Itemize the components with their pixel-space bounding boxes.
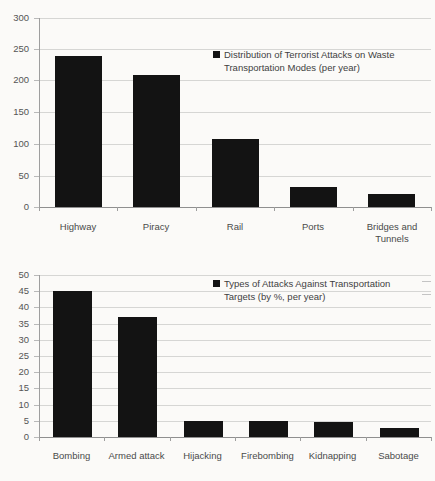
x-label-armed-attack: Armed attack: [104, 450, 169, 462]
y-tick-label: 10: [18, 400, 29, 410]
bar-sabotage: [380, 428, 419, 437]
x-label-kidnapping: Kidnapping: [300, 450, 365, 462]
y-tick-label: 0: [24, 202, 29, 212]
chart-terrorist-attacks-waste-transport: 300 250 200 150 100 50 0: [0, 0, 435, 262]
x-tick-mark: [196, 207, 197, 211]
x-tick-mark: [274, 207, 275, 211]
x-tick-mark: [39, 207, 40, 211]
legend-label-line2: Transportation Modes (per year): [224, 62, 360, 73]
x-tick-mark: [235, 437, 236, 441]
gridline: [39, 405, 431, 406]
y-tick-label: 50: [18, 270, 29, 280]
y-tick-label: 40: [18, 303, 29, 313]
bar-hijacking: [184, 421, 223, 437]
gridline: [39, 372, 431, 373]
y-tick-label: 150: [13, 107, 29, 117]
x-tick-mark: [431, 437, 432, 441]
y-tick-label: 25: [18, 351, 29, 361]
x-tick-mark: [39, 437, 40, 441]
y-tick-label: 30: [18, 335, 29, 345]
gridline: [39, 356, 431, 357]
legend-top: Distribution of Terrorist Attacks on Was…: [213, 49, 431, 74]
x-tick-mark: [300, 437, 301, 441]
bar-armed-attack: [118, 317, 157, 437]
bar-firebombing: [249, 421, 288, 437]
gridline: [39, 324, 431, 325]
x-tick-mark: [117, 207, 118, 211]
x-label-ports: Ports: [274, 221, 352, 233]
gridline: [39, 388, 431, 389]
x-tick-mark: [366, 437, 367, 441]
bar-highway: [55, 56, 102, 208]
bar-rail: [212, 139, 259, 207]
y-tick-label: 250: [13, 44, 29, 54]
y-tick-label: 100: [13, 139, 29, 149]
y-tick-label: 200: [13, 75, 29, 85]
gridline: [39, 307, 431, 308]
x-tick-mark: [104, 437, 105, 441]
gridline: [39, 18, 431, 19]
y-axis-line: [39, 275, 40, 437]
bar-kidnapping: [314, 422, 353, 437]
y-tick-label: 300: [13, 13, 29, 23]
legend-swatch-icon: [213, 51, 220, 58]
x-label-piracy: Piracy: [117, 221, 195, 233]
x-label-hijacking: Hijacking: [170, 450, 235, 462]
edge-artifact-dash: [422, 281, 431, 282]
legend-label-top: Distribution of Terrorist Attacks on Was…: [224, 49, 431, 74]
bar-bombing: [53, 291, 92, 437]
gridline: [39, 421, 431, 422]
legend-label-bottom: Types of Attacks Against Transportation …: [224, 278, 418, 303]
y-tick-label: 35: [18, 319, 29, 329]
x-label-sabotage: Sabotage: [366, 450, 431, 462]
x-label-rail: Rail: [196, 221, 274, 233]
y-tick-label: 20: [18, 367, 29, 377]
gridline: [39, 340, 431, 341]
y-tick-label: 45: [18, 286, 29, 296]
bar-piracy: [133, 75, 180, 207]
x-label-bombing: Bombing: [39, 450, 104, 462]
y-tick-label: 0: [24, 432, 29, 442]
gridline: [39, 275, 431, 276]
x-axis-line: [39, 207, 431, 208]
y-tick-label: 5: [24, 416, 29, 426]
edge-artifact-dash: [422, 294, 431, 295]
legend-label-line1: Distribution of Terrorist Attacks on Was…: [224, 49, 395, 60]
legend-swatch-icon: [213, 280, 220, 287]
y-axis-line: [39, 18, 40, 208]
y-tick-label: 50: [18, 171, 29, 181]
legend-label-line1: Types of Attacks Against Transportation: [224, 278, 390, 289]
x-label-firebombing: Firebombing: [235, 450, 300, 462]
legend-label-line2: Targets (by %, per year): [224, 291, 325, 302]
x-label-highway: Highway: [39, 221, 117, 233]
bar-bridges-tunnels: [368, 194, 415, 207]
x-label-bridges-tunnels: Bridges and Tunnels: [353, 221, 431, 244]
x-tick-mark: [170, 437, 171, 441]
legend-bottom: Types of Attacks Against Transportation …: [213, 278, 418, 303]
bar-ports: [290, 187, 337, 207]
x-tick-mark: [431, 207, 432, 211]
chart-types-of-attacks: 50 45 40 35 30 25 20 15 10 5 0: [0, 262, 435, 481]
x-tick-mark: [353, 207, 354, 211]
y-tick-label: 15: [18, 384, 29, 394]
